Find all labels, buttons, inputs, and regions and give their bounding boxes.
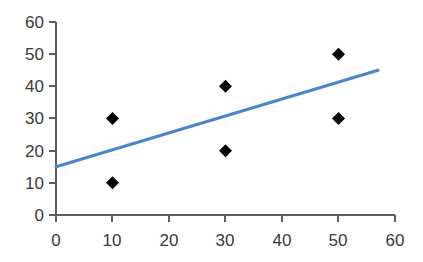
x-tick-label: 20: [160, 231, 179, 250]
y-tick-marks: [49, 22, 56, 215]
x-tick-label: 10: [103, 231, 122, 250]
data-point-marker: [106, 176, 119, 189]
y-tick-label: 30: [25, 109, 44, 128]
x-tick-label: 50: [329, 231, 348, 250]
y-tick-label: 50: [25, 45, 44, 64]
y-tick-label: 10: [25, 174, 44, 193]
x-tick-marks: [56, 215, 395, 222]
y-tick-label: 0: [35, 206, 44, 225]
x-tick-label: 40: [273, 231, 292, 250]
y-tick-label: 40: [25, 77, 44, 96]
y-tick-label: 20: [25, 142, 44, 161]
scatter-markers: [106, 48, 345, 190]
data-point-marker: [332, 48, 345, 61]
data-point-marker: [106, 112, 119, 125]
y-tick-label: 60: [25, 13, 44, 32]
scatter-chart: 60 50 40 30 20 10 0 0 10 20 30 40 50 60: [0, 0, 423, 262]
data-point-marker: [219, 144, 232, 157]
x-tick-label: 0: [51, 231, 60, 250]
data-point-marker: [219, 80, 232, 93]
plot-canvas: 60 50 40 30 20 10 0 0 10 20 30 40 50 60: [0, 0, 423, 262]
trend-line: [56, 70, 378, 167]
x-tick-label: 30: [216, 231, 235, 250]
data-point-marker: [332, 112, 345, 125]
x-tick-label: 60: [386, 231, 405, 250]
